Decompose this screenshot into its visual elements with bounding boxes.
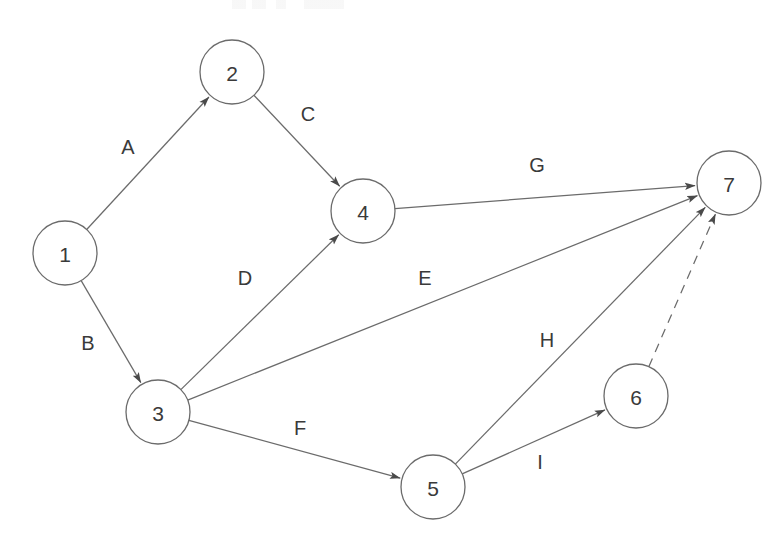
node-layer: 1234567 xyxy=(33,40,761,519)
node-circle-3[interactable] xyxy=(126,380,190,444)
diagram-canvas: 1234567 ABCDEFGHI xyxy=(0,0,782,539)
edge-n3-to-n5[interactable] xyxy=(189,420,400,478)
node-1[interactable]: 1 xyxy=(33,221,97,285)
node-4[interactable]: 4 xyxy=(331,179,395,243)
edge-n5-to-n7[interactable] xyxy=(455,207,705,464)
edge-label-I: I xyxy=(537,451,543,473)
edge-n6-to-n7[interactable] xyxy=(649,214,716,367)
node-circle-6[interactable] xyxy=(604,364,668,428)
edge-label-D: D xyxy=(238,267,252,289)
node-5[interactable]: 5 xyxy=(401,455,465,519)
node-6[interactable]: 6 xyxy=(604,364,668,428)
edge-n3-to-n4[interactable] xyxy=(181,235,339,390)
node-3[interactable]: 3 xyxy=(126,380,190,444)
edge-label-A: A xyxy=(121,136,135,158)
edge-n2-to-n4[interactable] xyxy=(254,95,340,186)
node-circle-7[interactable] xyxy=(697,151,761,215)
edge-label-B: B xyxy=(81,332,94,354)
graph-svg: 1234567 ABCDEFGHI xyxy=(0,0,782,539)
edge-n1-to-n3[interactable] xyxy=(81,281,141,383)
edge-label-E: E xyxy=(418,267,431,289)
edge-label-C: C xyxy=(301,103,315,125)
node-7[interactable]: 7 xyxy=(697,151,761,215)
edge-n4-to-n7[interactable] xyxy=(395,186,695,209)
edge-label-H: H xyxy=(540,329,554,351)
edge-label-F: F xyxy=(294,417,306,439)
edge-label-G: G xyxy=(529,154,545,176)
node-circle-5[interactable] xyxy=(401,455,465,519)
edge-n5-to-n6[interactable] xyxy=(462,410,605,474)
node-circle-4[interactable] xyxy=(331,179,395,243)
edge-n1-to-n2[interactable] xyxy=(87,97,209,229)
node-2[interactable]: 2 xyxy=(200,40,264,104)
node-circle-2[interactable] xyxy=(200,40,264,104)
node-circle-1[interactable] xyxy=(33,221,97,285)
